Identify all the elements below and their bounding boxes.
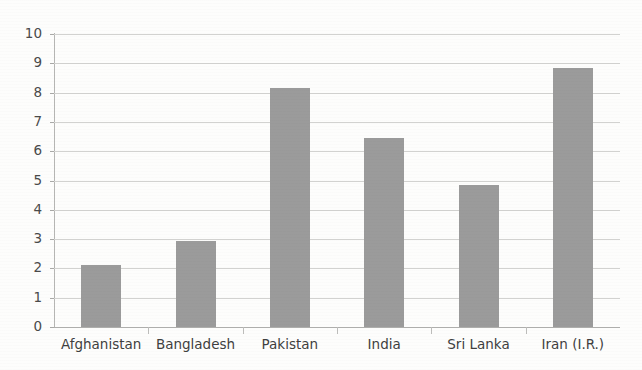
x-tick-3 bbox=[431, 327, 432, 334]
x-tick-4 bbox=[526, 327, 527, 334]
x-tick-label-1: Bangladesh bbox=[148, 338, 242, 352]
y-tick-label-1: 1 bbox=[14, 291, 42, 305]
gridline-1 bbox=[54, 298, 620, 299]
plot-area bbox=[54, 34, 620, 327]
y-tick-label-9: 9 bbox=[14, 56, 42, 70]
gridline-6 bbox=[54, 151, 620, 152]
gridline-7 bbox=[54, 122, 620, 123]
y-tick-label-8: 8 bbox=[14, 86, 42, 100]
y-tick-label-10: 10 bbox=[14, 27, 42, 41]
bar-pakistan bbox=[270, 88, 310, 327]
bar-afghanistan bbox=[81, 265, 121, 327]
gridline-8 bbox=[54, 93, 620, 94]
gridline-10 bbox=[54, 34, 620, 35]
y-tick-label-3: 3 bbox=[14, 232, 42, 246]
x-tick-label-3: India bbox=[337, 338, 431, 352]
x-tick-2 bbox=[337, 327, 338, 334]
x-tick-label-0: Afghanistan bbox=[54, 338, 148, 352]
bar-bangladesh bbox=[176, 241, 216, 327]
bar-iran-i-r bbox=[553, 68, 593, 327]
bar-india bbox=[364, 138, 404, 327]
gridline-2 bbox=[54, 268, 620, 269]
y-tick-label-4: 4 bbox=[14, 203, 42, 217]
bar-chart: 109876543210 AfghanistanBangladeshPakist… bbox=[0, 0, 642, 370]
gridline-4 bbox=[54, 210, 620, 211]
y-tick-label-5: 5 bbox=[14, 174, 42, 188]
x-tick-1 bbox=[243, 327, 244, 334]
x-tick-label-4: Sri Lanka bbox=[431, 338, 525, 352]
bar-sri-lanka bbox=[459, 185, 499, 327]
gridline-9 bbox=[54, 63, 620, 64]
x-tick-label-2: Pakistan bbox=[243, 338, 337, 352]
y-tick-label-7: 7 bbox=[14, 115, 42, 129]
gridline-5 bbox=[54, 181, 620, 182]
y-tick-label-2: 2 bbox=[14, 261, 42, 275]
gridline-3 bbox=[54, 239, 620, 240]
x-tick-label-5: Iran (I.R.) bbox=[526, 338, 620, 352]
y-tick-label-0: 0 bbox=[14, 320, 42, 334]
x-tick-0 bbox=[148, 327, 149, 334]
y-tick-label-6: 6 bbox=[14, 144, 42, 158]
